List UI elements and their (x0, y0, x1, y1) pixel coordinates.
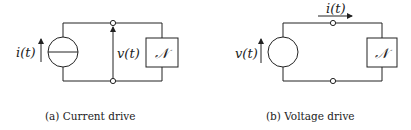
circuit-figures: i(t) v(t) 𝒩 (a) Current drive v(t) i(t) … (0, 0, 411, 130)
terminal-top (110, 20, 115, 25)
source-label: i(t) (16, 45, 36, 60)
voltage-source-icon (268, 37, 298, 67)
terminal-bottom (330, 78, 335, 83)
source-label: v(t) (235, 46, 258, 61)
terminal-top (330, 20, 335, 25)
caption-a: (a) Current drive (45, 110, 135, 122)
load-label: 𝒩 (375, 45, 393, 61)
voltage-label: v(t) (117, 46, 140, 61)
load-label: 𝒩 (155, 45, 173, 61)
current-label: i(t) (326, 1, 346, 16)
terminal-bottom (110, 78, 115, 83)
caption-b: (b) Voltage drive (266, 110, 355, 122)
